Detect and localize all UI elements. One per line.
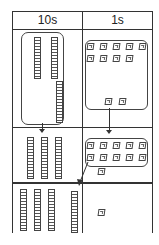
column-divider	[82, 11, 83, 233]
ten-rod	[71, 191, 78, 233]
one-cube	[98, 168, 106, 175]
ten-rod	[20, 189, 27, 231]
header-ones: 1s	[83, 11, 152, 29]
header-tens: 10s	[13, 11, 82, 29]
ten-rod	[55, 137, 62, 179]
one-cube	[87, 142, 95, 149]
table-left-border	[12, 11, 13, 233]
one-cube	[139, 154, 147, 161]
table-right-border	[152, 11, 153, 233]
one-cube	[113, 154, 121, 161]
one-cube	[139, 43, 147, 50]
ten-rod	[27, 137, 34, 179]
one-cube	[126, 55, 134, 62]
one-cube	[87, 43, 95, 50]
one-cube	[119, 98, 127, 105]
ones-group-box-row1	[85, 40, 148, 110]
arrow-down-ones	[109, 108, 110, 131]
one-cube	[100, 43, 108, 50]
ten-rod	[48, 189, 55, 231]
ten-rod	[34, 189, 41, 231]
one-cube	[113, 43, 121, 50]
one-cube	[100, 142, 108, 149]
arrow-head-icon	[106, 130, 112, 134]
one-cube	[113, 55, 121, 62]
regroup-arrow-icon	[74, 160, 94, 190]
one-cube	[126, 142, 134, 149]
row-divider-1	[12, 127, 153, 128]
one-cube	[100, 55, 108, 62]
one-cube	[87, 55, 95, 62]
one-cube	[126, 154, 134, 161]
one-cube	[126, 43, 134, 50]
ten-rod	[34, 37, 41, 79]
one-cube	[100, 154, 108, 161]
ten-rod	[56, 81, 63, 123]
one-cube	[139, 142, 147, 149]
one-cube	[105, 98, 113, 105]
arrow-head-icon	[39, 129, 45, 133]
ten-rod	[41, 137, 48, 179]
ten-rod	[51, 37, 58, 79]
one-cube	[113, 142, 121, 149]
one-cube	[98, 209, 106, 216]
